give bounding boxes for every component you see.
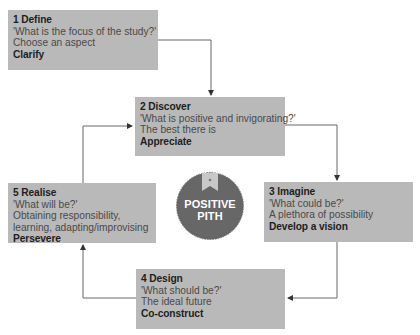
step-action: Persevere [13, 233, 151, 245]
step-title: 3 Imagine [269, 186, 408, 198]
step-question: 'What will be?' [13, 199, 151, 211]
step-action: Develop a vision [269, 221, 408, 233]
step-action: Clarify [13, 49, 153, 61]
step-description: Choose an aspect [13, 37, 153, 49]
step-title: 1 Define [13, 14, 153, 26]
step-description: The ideal future [141, 296, 280, 308]
step-question: 'What should be?' [141, 285, 280, 297]
step-question: 'What could be?' [269, 198, 408, 210]
badge-line-2: PITH [176, 210, 244, 222]
step-title: 5 Realise [13, 187, 151, 199]
step-imagine: 3 Imagine 'What could be?' A plethora of… [264, 182, 413, 242]
arrow-design-to-realise [83, 245, 136, 298]
step-question: 'What is the focus of the study?' [13, 26, 153, 38]
step-action: Appreciate [140, 136, 280, 148]
arrow-imagine-to-design [288, 242, 337, 298]
step-action: Co-construct [141, 308, 280, 320]
step-define: 1 Define 'What is the focus of the study… [8, 10, 158, 70]
badge-label: POSITIVE PITH [176, 198, 244, 222]
step-design: 4 Design 'What should be?' The ideal fut… [136, 269, 285, 329]
step-description: A plethora of possibility [269, 209, 408, 221]
arrow-discover-to-imagine [285, 125, 337, 180]
step-discover: 2 Discover 'What is positive and invigor… [135, 97, 285, 156]
step-description: The best there is [140, 124, 280, 136]
arrow-define-to-discover [158, 40, 211, 95]
arrow-realise-to-discover [83, 126, 132, 183]
positive-pith-badge: POSITIVE PITH [176, 172, 244, 240]
step-question: 'What is positive and invigorating?' [140, 113, 280, 125]
step-title: 2 Discover [140, 101, 280, 113]
badge-line-1: POSITIVE [176, 198, 244, 210]
step-description: Obtaining responsibility, learning, adap… [13, 210, 151, 233]
step-title: 4 Design [141, 273, 280, 285]
step-realise: 5 Realise 'What will be?' Obtaining resp… [8, 183, 156, 243]
